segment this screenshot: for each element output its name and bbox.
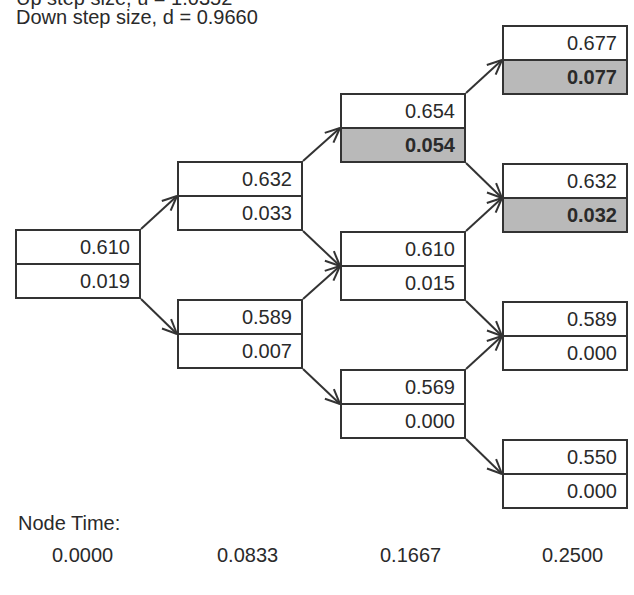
- edge-down-arrow-icon: [466, 301, 502, 336]
- tree-node-n1u: 0.6320.033: [177, 161, 303, 231]
- edge-down-arrow-icon: [303, 369, 340, 404]
- node-time-0: 0.0000: [52, 544, 113, 567]
- node-price-value: 0.569: [342, 371, 464, 405]
- node-option-value: 0.054: [342, 129, 464, 161]
- node-option-value: 0.000: [504, 337, 626, 369]
- node-option-value: 0.077: [504, 61, 626, 93]
- tree-node-n3d: 0.5500.000: [502, 439, 628, 509]
- node-option-value: 0.007: [179, 335, 301, 367]
- edge-up-arrow-icon: [466, 60, 502, 93]
- edge-up-arrow-icon: [466, 198, 502, 231]
- node-price-value: 0.550: [504, 441, 626, 475]
- node-time-label: Node Time:: [18, 512, 120, 535]
- node-price-value: 0.632: [179, 163, 301, 197]
- node-price-value: 0.677: [504, 27, 626, 61]
- node-price-value: 0.610: [342, 233, 464, 267]
- node-price-value: 0.589: [504, 303, 626, 337]
- node-time-3: 0.2500: [542, 544, 603, 567]
- tree-node-n1d: 0.5890.007: [177, 299, 303, 369]
- node-price-value: 0.632: [504, 165, 626, 199]
- node-price-value: 0.589: [179, 301, 301, 335]
- node-option-value: 0.000: [342, 405, 464, 437]
- edge-down-arrow-icon: [303, 231, 340, 266]
- node-option-value: 0.000: [504, 475, 626, 507]
- edge-down-arrow-icon: [466, 439, 502, 474]
- tree-node-n3a: 0.6770.077: [502, 25, 628, 95]
- node-option-value: 0.033: [179, 197, 301, 229]
- edge-down-arrow-icon: [141, 299, 177, 334]
- node-price-value: 0.654: [342, 95, 464, 129]
- edge-up-arrow-icon: [141, 196, 177, 229]
- node-price-value: 0.610: [17, 231, 139, 265]
- edge-up-arrow-icon: [303, 266, 340, 299]
- tree-node-n2uu: 0.6540.054: [340, 93, 466, 163]
- tree-node-n2dd: 0.5690.000: [340, 369, 466, 439]
- node-time-1: 0.0833: [217, 544, 278, 567]
- node-option-value: 0.015: [342, 267, 464, 299]
- tree-node-n0: 0.6100.019: [15, 229, 141, 299]
- edge-up-arrow-icon: [303, 128, 340, 161]
- node-option-value: 0.019: [17, 265, 139, 297]
- node-time-2: 0.1667: [380, 544, 441, 567]
- tree-node-n2ud: 0.6100.015: [340, 231, 466, 301]
- node-option-value: 0.032: [504, 199, 626, 231]
- edge-up-arrow-icon: [466, 336, 502, 369]
- tree-node-n3b: 0.6320.032: [502, 163, 628, 233]
- tree-node-n3c: 0.5890.000: [502, 301, 628, 371]
- edge-down-arrow-icon: [466, 163, 502, 198]
